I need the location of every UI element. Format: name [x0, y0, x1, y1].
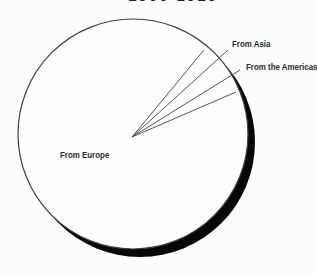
- slice-label-from-asia: From Asia: [232, 40, 270, 49]
- slice-label-from-the-americas: From the Americas: [246, 63, 317, 72]
- pie-disc-outline: [18, 19, 248, 249]
- slice-label-from-europe: From Europe: [60, 151, 109, 160]
- pie-chart-figure: 1900-1910 From AsiaFrom the AmericasFrom…: [0, 0, 317, 274]
